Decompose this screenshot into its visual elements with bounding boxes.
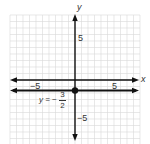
- x-tick-label-5: 5: [112, 82, 117, 91]
- line-right-arrow-icon: [132, 88, 139, 93]
- equation-fraction: 3 2: [59, 91, 66, 110]
- coordinate-plane: [0, 0, 150, 144]
- y-intercept-point: [72, 87, 78, 93]
- x-axis-label: x: [141, 75, 146, 84]
- y-axis-down-arrow-icon: [72, 134, 77, 141]
- equation-numerator: 3: [60, 91, 64, 99]
- y-axis-label: y: [77, 3, 82, 12]
- y-tick-label-5: 5: [78, 34, 83, 43]
- x-tick-label-neg5: −5: [30, 82, 40, 91]
- equation-label-prefix: y = −: [39, 96, 57, 104]
- x-axis-left-arrow-icon: [10, 77, 17, 82]
- line-left-arrow-icon: [10, 88, 17, 93]
- y-tick-label-neg5: −5: [77, 114, 87, 123]
- x-axis-right-arrow-icon: [132, 77, 139, 82]
- equation-denominator: 2: [60, 102, 64, 110]
